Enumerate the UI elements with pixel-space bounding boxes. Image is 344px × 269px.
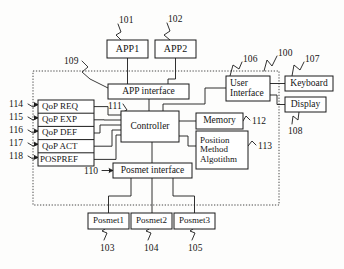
ref-number-101: 101 — [119, 15, 134, 25]
ref-number-117: 117 — [9, 138, 23, 148]
ref-number-110: 110 — [84, 166, 98, 176]
ref-number-106: 106 — [243, 54, 258, 64]
box-posmet3 — [174, 213, 215, 229]
box-app-interface — [108, 84, 189, 99]
ref-number-107: 107 — [305, 54, 320, 64]
ref-number-100: 100 — [278, 48, 293, 58]
ref-number-104: 104 — [144, 243, 159, 253]
ref-number-113: 113 — [258, 141, 272, 151]
box-posmet-interface — [113, 163, 192, 178]
ref-number-102: 102 — [168, 14, 183, 24]
box-posmet2 — [131, 213, 172, 229]
box-user-interface — [226, 76, 270, 101]
qop-stack-outline — [38, 100, 94, 166]
ref-number-112: 112 — [252, 116, 266, 126]
ref-number-111: 111 — [108, 101, 122, 111]
ref-number-105: 105 — [188, 243, 203, 253]
ref-number-118: 118 — [9, 151, 23, 161]
box-position-method-algorithm — [196, 131, 248, 169]
box-keyboard — [285, 76, 333, 91]
ref-number-115: 115 — [9, 112, 23, 122]
ref-number-103: 103 — [100, 243, 115, 253]
box-app1 — [107, 40, 148, 58]
ref-number-116: 116 — [9, 125, 23, 135]
box-memory — [196, 113, 243, 129]
patent-figure: APP1 APP2 APP interface Controller Memor… — [0, 0, 344, 269]
box-posmet1 — [88, 213, 129, 229]
qop-parameter-stack-box — [38, 100, 94, 166]
ref-number-108: 108 — [288, 126, 303, 136]
ref-number-109: 109 — [64, 56, 79, 66]
box-controller — [121, 111, 179, 142]
box-app2 — [155, 40, 196, 58]
ref-number-114: 114 — [9, 99, 23, 109]
box-display — [285, 97, 326, 112]
